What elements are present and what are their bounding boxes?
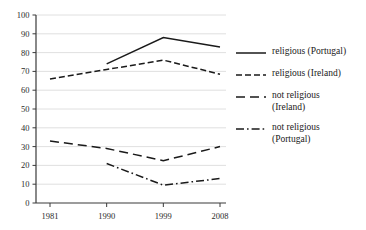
y-tick-label: 0	[25, 198, 29, 208]
series-line-2	[50, 141, 220, 161]
legend-label: not religious (Portugal)	[272, 122, 320, 145]
y-tick-label: 30	[21, 142, 30, 152]
legend-label: religious (Ireland)	[272, 68, 341, 80]
series-line-1	[50, 60, 220, 79]
y-tick-labels: 0102030405060708090100	[17, 10, 30, 208]
x-tick-label: 2008	[212, 211, 229, 221]
y-tick-label: 20	[21, 160, 30, 170]
x-tick-label: 1999	[155, 211, 172, 221]
gridlines	[36, 15, 226, 184]
x-tick-labels: 1981199019992008	[42, 211, 229, 221]
legend-entry-0[interactable]: religious (Portugal)	[236, 46, 366, 59]
y-tick-label: 50	[21, 104, 30, 114]
data-series-group	[50, 38, 220, 186]
y-tick-label: 40	[21, 123, 30, 133]
legend-entry-2[interactable]: not religious (Ireland)	[236, 90, 366, 113]
line-chart-svg: 0102030405060708090100 1981199019992008	[0, 0, 232, 230]
series-line-0	[107, 38, 220, 64]
legend-label: religious (Portugal)	[272, 46, 346, 58]
legend-line-swatch	[236, 123, 266, 135]
legend-entry-3[interactable]: not religious (Portugal)	[236, 122, 366, 145]
series-line-3	[107, 164, 220, 186]
chart-figure: 0102030405060708090100 1981199019992008 …	[0, 0, 366, 230]
y-tick-label: 90	[21, 29, 30, 39]
x-tick-marks	[50, 203, 220, 207]
y-tick-label: 80	[21, 48, 30, 58]
legend-entry-1[interactable]: religious (Ireland)	[236, 68, 366, 81]
y-tick-label: 10	[21, 179, 30, 189]
y-tick-label: 70	[21, 66, 30, 76]
x-tick-label: 1990	[98, 211, 115, 221]
legend-line-swatch	[236, 91, 266, 103]
legend-line-swatch	[236, 47, 266, 59]
y-tick-label: 100	[17, 10, 30, 20]
plot-area: 0102030405060708090100 1981199019992008	[0, 0, 232, 230]
y-tick-label: 60	[21, 85, 30, 95]
legend-line-swatch	[236, 69, 266, 81]
x-tick-label: 1981	[42, 211, 59, 221]
chart-legend: religious (Portugal)religious (Ireland)n…	[236, 46, 366, 154]
legend-label: not religious (Ireland)	[272, 90, 320, 113]
